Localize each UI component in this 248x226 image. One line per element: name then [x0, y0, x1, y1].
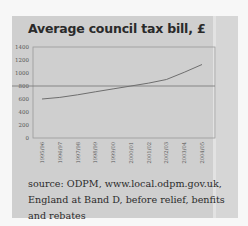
x-tick-label: 1999/00 — [110, 142, 116, 164]
plot-area — [33, 47, 215, 138]
x-tick-label: 1997/98 — [75, 142, 81, 164]
x-tick-label: 1998/99 — [92, 142, 98, 164]
x-tick-label: 2004/05 — [199, 142, 205, 164]
x-tick-label: 1995/96 — [39, 142, 45, 164]
x-axis: 1995/961996/971997/981998/991999/002000/… — [39, 141, 205, 163]
y-tick-label: 1000 — [15, 70, 29, 76]
x-tick-label: 2000/01 — [128, 142, 134, 164]
x-tick-label: 2001/02 — [146, 142, 152, 164]
y-tick-label: 1200 — [15, 57, 29, 63]
plot-border — [33, 47, 215, 138]
line-chart: 0200400600800100012001400 1995/961996/97… — [0, 0, 248, 226]
series-line — [42, 65, 202, 100]
y-tick-label: 1400 — [15, 44, 29, 50]
data-series — [42, 65, 202, 100]
y-tick-label: 200 — [19, 122, 30, 128]
x-tick-label: 1996/97 — [57, 142, 63, 164]
y-tick-label: 400 — [19, 109, 30, 115]
x-tick-label: 2003/04 — [181, 141, 187, 163]
x-tick-label: 2002/03 — [163, 142, 169, 164]
y-axis: 0200400600800100012001400 — [15, 44, 30, 141]
y-tick-label: 0 — [26, 135, 30, 141]
y-tick-label: 600 — [19, 96, 30, 102]
